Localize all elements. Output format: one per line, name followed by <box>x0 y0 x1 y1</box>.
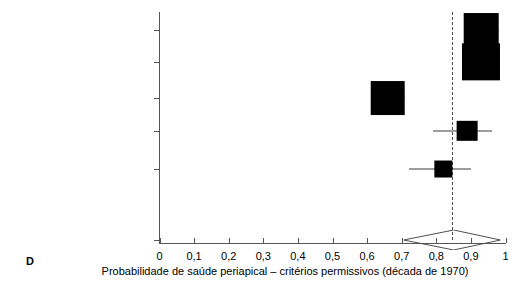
reference-line <box>452 12 453 240</box>
x-axis-tick <box>506 238 507 243</box>
x-axis-title-text: Probabilidade de saúde periapical – crit… <box>102 265 469 277</box>
x-axis-title: Probabilidade de saúde periapical – crit… <box>0 265 532 277</box>
study-estimate-box <box>371 81 406 115</box>
y-axis-tick <box>154 62 159 63</box>
x-axis-tick-label: 1 <box>486 250 526 262</box>
forest-plot-figure: D Selden 1974Adenubi e Rule 1976Jokinen … <box>0 0 532 301</box>
y-axis-tick <box>154 131 159 132</box>
x-axis-tick <box>367 238 368 243</box>
study-estimate-box <box>464 13 499 47</box>
x-axis-tick <box>298 238 299 243</box>
y-axis-tick <box>154 169 159 170</box>
summary-diamond <box>403 230 500 250</box>
x-axis-tick <box>333 238 334 243</box>
study-estimate-box <box>435 161 452 178</box>
y-axis-line <box>159 12 160 243</box>
y-axis-tick <box>154 98 159 99</box>
y-axis-tick <box>154 30 159 31</box>
x-axis-tick <box>194 238 195 243</box>
y-axis-tick <box>154 240 159 241</box>
x-axis-tick <box>160 238 161 243</box>
x-axis-tick <box>263 238 264 243</box>
study-estimate-box <box>462 43 500 80</box>
x-axis-tick <box>229 238 230 243</box>
study-estimate-box <box>457 121 478 141</box>
